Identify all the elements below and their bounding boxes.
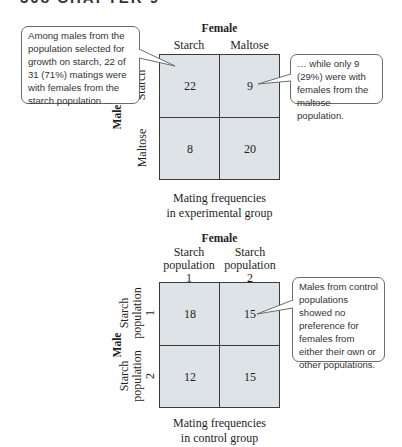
callout-pointer-control-right bbox=[257, 300, 293, 314]
callout-pointer-experimental-left bbox=[139, 49, 175, 66]
callout-pointers bbox=[0, 0, 402, 447]
callout-pointer-experimental-right bbox=[258, 74, 291, 84]
